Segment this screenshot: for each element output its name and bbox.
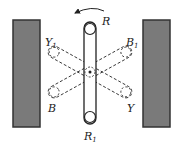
right-wall <box>143 20 170 127</box>
label-y1: Y1 <box>45 36 57 50</box>
label-y: Y <box>127 102 136 115</box>
label-r1: R1 <box>83 130 97 144</box>
rotating-rod-diagram: R R1 Y1 B1 B Y <box>0 0 178 146</box>
rotation-arrow-icon <box>75 8 104 13</box>
label-b: B <box>47 102 56 115</box>
pivot-dot <box>89 71 92 74</box>
label-r: R <box>101 15 110 28</box>
label-b1: B1 <box>125 36 139 50</box>
left-wall <box>13 20 40 127</box>
